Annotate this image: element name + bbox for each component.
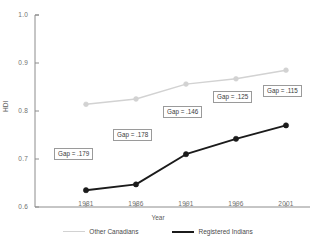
x-axis-title: Year [0,214,316,221]
y-tick-label: 0.6 [6,203,28,210]
legend-line-swatch-icon [172,231,194,233]
x-tick-label: 1991 [166,200,206,207]
legend-entry-registered-indians: Registered Indians [172,228,252,235]
legend-label: Other Canadians [89,228,138,235]
x-tick-label: 2001 [266,200,306,207]
y-tick-label: 0.7 [6,155,28,162]
legend-label: Registered Indians [198,228,252,235]
x-tick-label: 1996 [216,200,256,207]
y-tick-label: 0.9 [6,59,28,66]
y-tick-label: 0.8 [6,107,28,114]
chart-legend: Other Canadians Registered Indians [0,228,316,235]
x-tick-label: 1981 [66,200,106,207]
legend-entry-other-canadians: Other Canadians [63,228,138,235]
gap-annotation: Gap = .125 [213,91,252,103]
gap-annotation: Gap = .146 [163,106,202,118]
hdi-gap-line-chart: 1.0 0.9 0.8 0.7 0.6 1981 1986 1991 1996 … [0,0,316,242]
legend-line-swatch-icon [63,231,85,232]
gap-annotation: Gap = .178 [113,129,152,141]
x-tick-label: 1986 [116,200,156,207]
gap-annotation: Gap = .179 [54,148,93,160]
y-tick-label: 1.0 [6,11,28,18]
gap-annotation: Gap = .115 [263,85,302,97]
y-axis-title: HDI [2,101,9,112]
